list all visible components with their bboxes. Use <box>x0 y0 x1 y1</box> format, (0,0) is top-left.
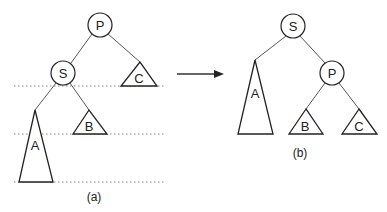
subtree-label: C <box>134 71 143 86</box>
subtree-label: B <box>301 119 310 134</box>
node-s-after: S <box>281 14 305 38</box>
subtree-a-before: A <box>19 110 53 182</box>
edge-p-b <box>306 83 325 109</box>
subtree-a-after: A <box>238 60 273 134</box>
tree-after: S P A B C (b) <box>238 14 377 160</box>
node-p-after: P <box>320 61 344 85</box>
edge-s-a <box>35 83 56 110</box>
subtree-label: A <box>251 86 260 101</box>
caption-a: (a) <box>87 190 102 204</box>
subtree-b-after: B <box>289 109 323 134</box>
node-label: S <box>59 66 68 81</box>
tree-rotation-diagram: P S C B A (a) <box>0 0 387 212</box>
node-p-before: P <box>88 13 112 37</box>
subtree-label: C <box>354 119 363 134</box>
caption-b: (b) <box>293 146 308 160</box>
subtree-label: A <box>31 138 40 153</box>
edge-s-a <box>255 36 286 60</box>
arrow-right-icon <box>177 70 224 78</box>
node-label: P <box>328 66 337 81</box>
tree-before: P S C B A (a) <box>19 13 157 204</box>
edge-s-p <box>300 36 325 63</box>
node-label: S <box>289 19 298 34</box>
edge-p-s <box>71 34 92 63</box>
edge-s-b <box>70 83 89 110</box>
subtree-c-after: C <box>342 109 377 134</box>
edge-p-c <box>108 34 140 62</box>
subtree-c-before: C <box>121 62 157 86</box>
subtree-b-before: B <box>73 110 107 134</box>
node-s-before: S <box>51 61 75 85</box>
node-label: P <box>96 18 105 33</box>
edge-p-c <box>339 83 359 109</box>
subtree-label: B <box>85 119 94 134</box>
